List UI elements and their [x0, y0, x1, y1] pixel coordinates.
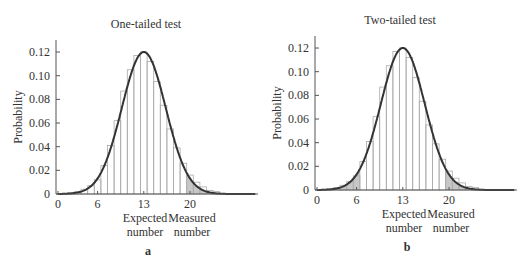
- y-tick-label: 0.12: [288, 41, 309, 55]
- histogram-bar: [154, 82, 161, 194]
- shaded-tail: [446, 169, 515, 190]
- y-tick-label: 0.08: [29, 92, 50, 106]
- normal-curve: [317, 48, 514, 190]
- y-ticks: 00.020.040.060.080.100.12: [29, 45, 60, 201]
- chart-title: One-tailed test: [111, 17, 182, 31]
- y-tick-label: 0.02: [288, 159, 309, 173]
- measured-label-2: number: [174, 225, 211, 239]
- x-tick-label: 0: [314, 193, 320, 207]
- y-tick-label: 0.06: [288, 112, 309, 126]
- x-tick-label: 6: [354, 193, 360, 207]
- expected-label: Expected: [123, 211, 168, 225]
- histogram-bar: [147, 62, 154, 194]
- y-tick-label: 0.08: [288, 88, 309, 102]
- y-tick-label: 0.04: [29, 140, 50, 154]
- histogram-bar: [167, 129, 174, 194]
- y-axis-label: Probability: [11, 90, 25, 143]
- expected-label-2: number: [386, 221, 423, 235]
- y-axis-label: Probability: [270, 86, 284, 139]
- x-tick-label: 6: [95, 197, 101, 211]
- histogram-bar: [386, 66, 393, 190]
- measured-label: Measured: [168, 211, 215, 225]
- histogram-bar: [127, 70, 134, 194]
- histogram-bar: [426, 125, 433, 190]
- y-tick-label: 0.10: [29, 69, 50, 83]
- histogram-bar: [134, 56, 141, 194]
- shaded-tail: [187, 173, 256, 194]
- measured-label-2: number: [433, 221, 470, 235]
- panel-label: a: [145, 244, 151, 258]
- histogram-bar: [141, 52, 148, 194]
- histogram-bar: [160, 105, 167, 194]
- measured-label: Measured: [427, 207, 474, 221]
- x-tick-label: 20: [443, 193, 455, 207]
- x-tick-label: 0: [55, 197, 61, 211]
- chart-one-tailed: One-tailed test 00.020.040.060.080.100.1…: [11, 17, 258, 258]
- chart-title: Two-tailed test: [364, 13, 436, 27]
- x-tick-label: 13: [397, 193, 409, 207]
- y-tick-label: 0.04: [288, 136, 309, 150]
- x-tick-label: 13: [138, 197, 150, 211]
- panel-label: b: [404, 240, 411, 254]
- y-tick-label: 0.10: [288, 65, 309, 79]
- histogram-bar: [413, 78, 420, 190]
- y-tick-label: 0: [44, 187, 50, 201]
- normal-curve: [58, 52, 255, 194]
- expected-label-2: number: [127, 225, 164, 239]
- expected-label: Expected: [382, 207, 427, 221]
- y-tick-label: 0.02: [29, 163, 50, 177]
- y-tick-label: 0: [303, 183, 309, 197]
- histogram-bar: [393, 52, 400, 190]
- histogram-bars: [61, 52, 256, 194]
- histogram-bar: [406, 58, 413, 190]
- x-tick-label: 20: [184, 197, 196, 211]
- histogram-bar: [400, 48, 407, 190]
- chart-two-tailed: Two-tailed test 00.020.040.060.080.100.1…: [270, 13, 517, 254]
- y-ticks: 00.020.040.060.080.100.12: [288, 41, 319, 197]
- histogram-bar: [419, 101, 426, 190]
- y-tick-label: 0.12: [29, 45, 50, 59]
- y-tick-label: 0.06: [29, 116, 50, 130]
- figure: One-tailed test 00.020.040.060.080.100.1…: [0, 0, 523, 259]
